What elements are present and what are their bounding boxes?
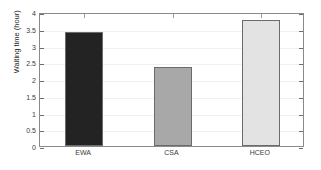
bar-hceo	[242, 20, 280, 146]
x-tick-label-ewa: EWA	[75, 149, 91, 156]
y-tick-mark-right	[299, 48, 303, 49]
y-tick-mark-right	[299, 31, 303, 32]
x-tick-label-hceo: HCEO	[250, 149, 270, 156]
y-tick-mark	[40, 48, 44, 49]
y-tick-mark-right	[299, 64, 303, 65]
y-tick-label: 0	[32, 144, 36, 151]
y-tick-label: 1	[32, 110, 36, 117]
y-tick-label: 0.5	[26, 127, 36, 134]
bar-ewa	[65, 32, 103, 146]
y-tick-mark	[40, 14, 44, 15]
y-tick-label: 1.5	[26, 93, 36, 100]
y-tick-mark	[40, 81, 44, 82]
y-tick-mark	[40, 115, 44, 116]
y-tick-mark	[40, 98, 44, 99]
plot-area	[39, 13, 304, 147]
y-tick-mark-right	[299, 81, 303, 82]
x-tick-mark-top	[173, 14, 174, 18]
y-tick-label: 4	[32, 10, 36, 17]
y-tick-label: 2	[32, 77, 36, 84]
y-tick-mark-right	[299, 14, 303, 15]
y-tick-mark	[40, 131, 44, 132]
y-tick-label: 2.5	[26, 60, 36, 67]
x-tick-mark-top	[84, 14, 85, 18]
y-tick-mark-right	[299, 115, 303, 116]
x-tick-mark-top	[261, 14, 262, 18]
y-tick-mark-right	[299, 131, 303, 132]
y-tick-mark	[40, 31, 44, 32]
y-tick-label: 3.5	[26, 26, 36, 33]
x-axis-tick-labels: EWACSAHCEO	[39, 149, 304, 163]
y-tick-label: 3	[32, 43, 36, 50]
y-tick-mark	[40, 64, 44, 65]
y-axis-tick-labels: 00.511.522.533.54	[18, 13, 36, 147]
x-tick-label-csa: CSA	[164, 149, 178, 156]
y-tick-mark-right	[299, 98, 303, 99]
bar-csa	[154, 67, 192, 146]
bar-chart-figure: Waiting time (hour) 00.511.522.533.54 EW…	[0, 0, 321, 170]
